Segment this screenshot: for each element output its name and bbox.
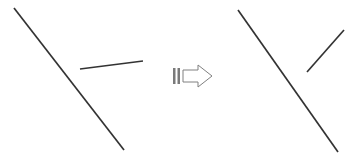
arrow-tail-bar-2 <box>178 68 181 84</box>
canvas-background <box>0 0 363 158</box>
arrow-tail-bar-1 <box>173 68 176 84</box>
diagram-canvas <box>0 0 363 158</box>
figure-svg <box>0 0 363 158</box>
